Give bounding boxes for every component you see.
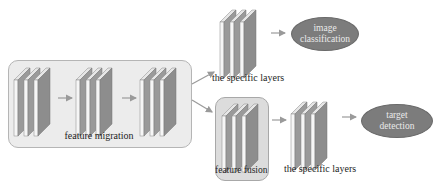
output-label-line2: detection bbox=[380, 121, 415, 132]
feature-fusion-label: feature fusion bbox=[215, 165, 267, 175]
target-detection-output: target detection bbox=[361, 104, 433, 138]
output-label-line2: classification bbox=[300, 34, 350, 45]
image-classification-output: image classification bbox=[291, 17, 359, 51]
specific-layers-label-bottom: the specific layers bbox=[284, 163, 356, 174]
feature-migration-label: feature migration bbox=[8, 130, 190, 141]
specific-layers-label-top: the specific layers bbox=[212, 72, 284, 83]
output-label-line1: image bbox=[313, 23, 336, 34]
specific-layers-stack-top bbox=[220, 6, 260, 82]
output-label-line1: target bbox=[386, 110, 407, 121]
